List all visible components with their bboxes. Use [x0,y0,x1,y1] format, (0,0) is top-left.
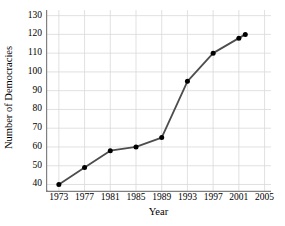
y-axis-tick-label: 120 [16,30,42,40]
y-axis-tick-label: 130 [16,11,42,21]
chart-figure: Number of Democracies 405060708090100110… [0,0,285,226]
y-axis-tick-label: 90 [16,86,42,96]
y-axis-tick-label: 50 [16,161,42,171]
x-axis-tick-label: 2005 [248,192,282,203]
chart-canvas [46,10,271,192]
y-axis-tick-label: 110 [16,48,42,58]
y-axis-tick-label: 100 [16,67,42,77]
y-axis-tick-label: 80 [16,105,42,115]
y-axis-tick-label: 60 [16,142,42,152]
x-axis-tick-labels: 197319771981198519891993199720012005 [0,192,285,206]
plot-area [46,10,271,192]
x-axis-title-text: Year [149,206,168,217]
y-axis-tick-label: 40 [16,180,42,190]
x-axis-title: Year [46,206,271,217]
y-axis-tick-label: 70 [16,123,42,133]
